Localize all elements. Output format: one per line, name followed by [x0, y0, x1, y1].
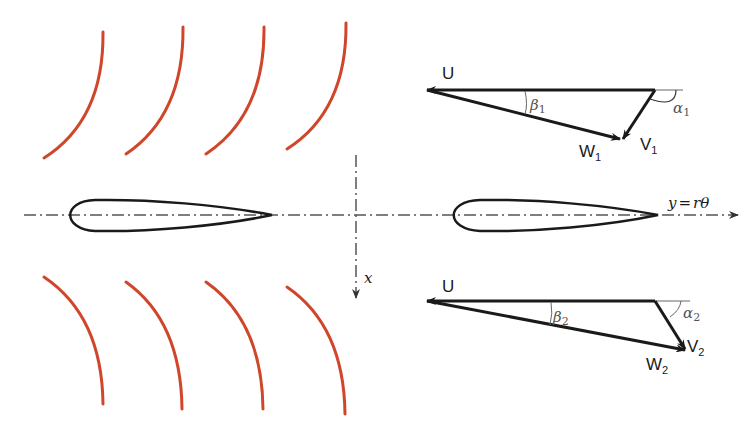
- lower-blade-4: [287, 287, 345, 414]
- inlet-velocity-triangle: U β1 α1 V1 W1: [427, 64, 690, 163]
- alpha2-arc: [670, 301, 681, 317]
- V2-label: V2: [687, 337, 704, 358]
- lower-blade-row: [44, 277, 345, 414]
- U2-label: U: [442, 277, 454, 296]
- alpha1-label: α1: [673, 99, 690, 119]
- beta2-label: β2: [552, 308, 569, 328]
- upper-blade-2: [126, 27, 183, 154]
- V2-vector: [655, 301, 685, 349]
- lower-blade-2: [126, 282, 182, 409]
- upper-blade-4: [287, 23, 346, 149]
- upper-blade-1: [44, 32, 103, 158]
- U1-label: U: [442, 64, 454, 83]
- V1-label: V1: [640, 135, 657, 156]
- lower-blade-3: [206, 282, 263, 409]
- beta2-arc: [550, 302, 552, 325]
- outlet-velocity-triangle: U β2 α2 V2 W2: [427, 277, 704, 376]
- y-axis-label: y=rθ: [667, 194, 709, 212]
- upper-blade-row: [44, 23, 346, 158]
- W1-label: W1: [579, 142, 601, 163]
- lower-blade-1: [44, 277, 103, 404]
- upper-blade-3: [206, 27, 264, 154]
- alpha2-label: α2: [683, 304, 700, 324]
- W1-vector: [427, 90, 620, 139]
- diagram-canvas: y=rθ x U β1 α1 V1 W1 U β2 α2 V2 W2: [0, 0, 755, 434]
- x-axis-label: x: [364, 269, 373, 287]
- W2-label: W2: [646, 355, 668, 376]
- beta1-label: β1: [529, 96, 546, 116]
- beta1-arc: [525, 91, 527, 114]
- V1-vector: [623, 90, 655, 139]
